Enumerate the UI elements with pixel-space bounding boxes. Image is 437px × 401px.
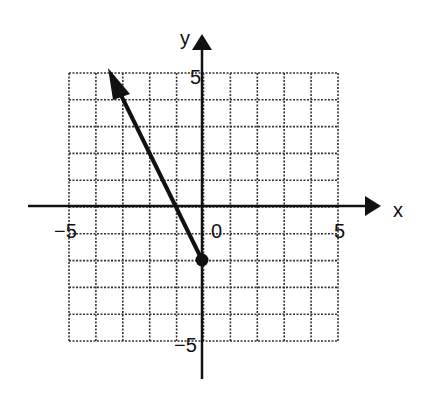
coordinate-plane: x y −5 0 5 5 −5 (0, 0, 437, 401)
y-max-tick-label: 5 (190, 66, 201, 88)
y-min-tick-label: −5 (174, 334, 197, 356)
x-axis-arrow-icon (365, 196, 381, 216)
x-min-tick-label: −5 (54, 220, 77, 242)
origin-label: 0 (211, 220, 222, 242)
x-axis-label: x (393, 199, 403, 221)
ray-series (108, 68, 209, 267)
x-axis (28, 196, 381, 216)
y-axis-label: y (180, 27, 190, 49)
y-axis-arrow-icon (192, 34, 212, 50)
x-max-tick-label: 5 (334, 220, 345, 242)
ray-start-point (196, 254, 209, 267)
